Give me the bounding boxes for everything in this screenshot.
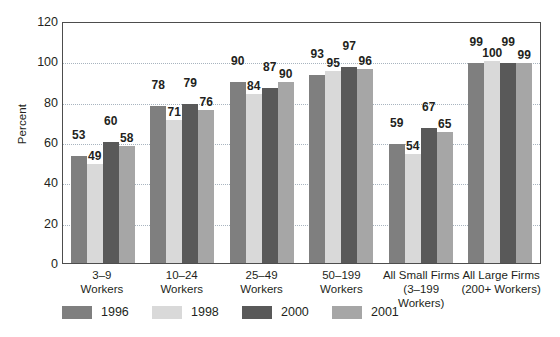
category-line-1: All Small Firms — [383, 269, 460, 281]
bar-slot: 79 — [182, 23, 198, 263]
bar-slot: 53 — [71, 23, 87, 263]
legend: 1996199820002001 — [62, 302, 422, 322]
bar[interactable] — [421, 128, 437, 263]
bar-slot: 60 — [103, 23, 119, 263]
bar-value-label: 93 — [311, 48, 324, 60]
bar-slot: 84 — [246, 23, 262, 263]
category-line-2: Workers — [62, 282, 142, 296]
bar[interactable] — [278, 82, 294, 264]
bar[interactable] — [166, 120, 182, 263]
bar-value-label: 99 — [518, 49, 531, 61]
bar[interactable] — [230, 82, 246, 264]
bar-group: 991009999 — [468, 23, 532, 263]
category-line-2: Workers — [222, 282, 302, 296]
bar[interactable] — [500, 63, 516, 263]
plot-area: 5349605878717976908487909395979659546765… — [62, 22, 541, 264]
bar-group: 53496058 — [71, 23, 135, 263]
bar-group: 78717976 — [150, 23, 214, 263]
bar-slot: 87 — [262, 23, 278, 263]
bar-slot: 97 — [341, 23, 357, 263]
bar[interactable] — [437, 132, 453, 263]
x-axis-category-label: 25–49Workers — [222, 268, 302, 302]
bar-value-label: 76 — [200, 96, 213, 108]
bar[interactable] — [103, 142, 119, 263]
bar-value-label: 97 — [343, 40, 356, 52]
bar-slot: 78 — [150, 23, 166, 263]
bar-value-label: 99 — [470, 36, 483, 48]
bar-slot: 59 — [389, 23, 405, 263]
legend-swatch — [332, 306, 362, 319]
y-tick-label: 0 — [20, 257, 58, 271]
bar[interactable] — [309, 75, 325, 263]
legend-label: 2001 — [371, 305, 399, 319]
bar-slot: 93 — [309, 23, 325, 263]
legend-label: 1998 — [191, 305, 219, 319]
bar-value-label: 71 — [168, 106, 181, 118]
bar[interactable] — [357, 69, 373, 263]
bar[interactable] — [262, 88, 278, 263]
bar-chart: Percent 120100806040200 5349605878717976… — [0, 0, 560, 337]
bar-value-label: 67 — [422, 101, 435, 113]
bar[interactable] — [198, 110, 214, 263]
y-tick-label: 120 — [20, 15, 58, 29]
bar-groups: 5349605878717976908487909395979659546765… — [63, 23, 540, 263]
bar[interactable] — [71, 156, 87, 263]
category-line-2: Workers — [142, 282, 222, 296]
category-line-1: 50–199 — [322, 269, 360, 281]
bar[interactable] — [87, 164, 103, 263]
bar-value-label: 58 — [120, 132, 133, 144]
bar-slot: 96 — [357, 23, 373, 263]
legend-label: 2000 — [281, 305, 309, 319]
bar-slot: 90 — [278, 23, 294, 263]
y-tick-label: 20 — [20, 217, 58, 231]
x-axis-labels: 3–9Workers10–24Workers25–49Workers50–199… — [62, 268, 541, 302]
bar-slot: 76 — [198, 23, 214, 263]
bar-slot: 90 — [230, 23, 246, 263]
y-tick-label: 100 — [20, 55, 58, 69]
bar[interactable] — [405, 154, 421, 263]
bar-slot: 100 — [484, 23, 500, 263]
bar[interactable] — [341, 67, 357, 263]
legend-item[interactable]: 1998 — [152, 305, 242, 319]
x-axis-category-label: 50–199Workers — [301, 268, 381, 302]
bar-value-label: 49 — [88, 150, 101, 162]
legend-label: 1996 — [101, 305, 129, 319]
bar-value-label: 87 — [263, 61, 276, 73]
legend-swatch — [62, 306, 92, 319]
bar[interactable] — [325, 71, 341, 263]
x-axis-category-label: All Large Firms(200+ Workers) — [461, 268, 541, 302]
bar-slot: 71 — [166, 23, 182, 263]
bar-value-label: 96 — [359, 55, 372, 67]
bar-value-label: 90 — [231, 55, 244, 67]
bar[interactable] — [389, 144, 405, 263]
category-line-1: 10–24 — [166, 269, 198, 281]
bar-value-label: 78 — [152, 79, 165, 91]
category-line-1: 25–49 — [246, 269, 278, 281]
bar[interactable] — [119, 146, 135, 263]
bar-value-label: 54 — [406, 140, 419, 152]
y-tick-label: 40 — [20, 176, 58, 190]
legend-item[interactable]: 1996 — [62, 305, 152, 319]
bar-value-label: 84 — [247, 80, 260, 92]
legend-swatch — [242, 306, 272, 319]
bar-value-label: 100 — [482, 47, 502, 59]
bar[interactable] — [246, 94, 262, 263]
bar[interactable] — [182, 104, 198, 263]
bar[interactable] — [468, 63, 484, 263]
bar[interactable] — [516, 63, 532, 263]
category-line-1: 3–9 — [92, 269, 111, 281]
bar-slot: 54 — [405, 23, 421, 263]
bar[interactable] — [484, 61, 500, 263]
bar-slot: 67 — [421, 23, 437, 263]
category-line-2: Workers — [301, 282, 381, 296]
category-line-1: All Large Firms — [462, 269, 539, 281]
bar-slot: 95 — [325, 23, 341, 263]
bar-value-label: 60 — [104, 115, 117, 127]
legend-item[interactable]: 2001 — [332, 305, 422, 319]
bar-value-label: 59 — [390, 117, 403, 129]
bar-slot: 99 — [500, 23, 516, 263]
legend-item[interactable]: 2000 — [242, 305, 332, 319]
bar[interactable] — [150, 106, 166, 263]
bar-slot: 65 — [437, 23, 453, 263]
bar-value-label: 79 — [184, 77, 197, 89]
